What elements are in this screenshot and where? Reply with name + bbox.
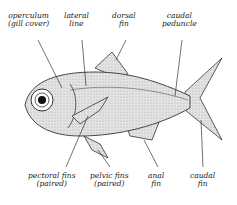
label-text: (paired) — [90, 180, 129, 188]
label-caudal-peduncle: caudal peduncle — [162, 12, 197, 28]
label-pectoral-fins: pectoral fins (paired) — [28, 172, 76, 188]
label-text: (gill cover) — [8, 20, 49, 28]
label-text: fin — [148, 180, 164, 188]
label-pelvic-fins: pelvic fins (paired) — [90, 172, 129, 188]
label-anal-fin: anal fin — [148, 172, 164, 188]
label-lateral-line: lateral line — [64, 12, 89, 28]
label-text: line — [64, 20, 89, 28]
label-text: (paired) — [28, 180, 76, 188]
label-dorsal-fin: dorsal fin — [112, 12, 136, 28]
label-caudal-fin: caudal fin — [190, 172, 215, 188]
label-text: peduncle — [162, 20, 197, 28]
label-text: fin — [190, 180, 215, 188]
label-text: fin — [112, 20, 136, 28]
pelvic-fin — [84, 136, 108, 158]
caudal-fin — [185, 58, 222, 140]
label-operculum: operculum (gill cover) — [8, 12, 49, 28]
